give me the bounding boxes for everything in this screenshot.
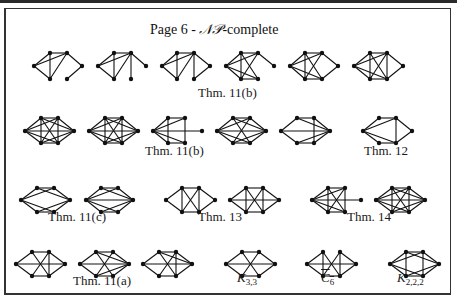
graph-edge (250, 118, 266, 131)
graph-vertex (261, 186, 265, 190)
graph-vertex (56, 116, 60, 120)
k222-sub: 2,2,2 (406, 277, 424, 287)
graph-edge (322, 53, 338, 66)
graph-vertex (111, 250, 115, 254)
graph-vertex (385, 77, 389, 81)
graph-edge (194, 66, 210, 79)
graph-g21 (141, 250, 194, 278)
graph-edge (118, 200, 133, 212)
graph-vertex (160, 64, 164, 68)
graph-edge (312, 200, 328, 212)
graph-vertex (157, 250, 161, 254)
label-c6-complement: C6 (321, 271, 334, 284)
graph-vertex (277, 198, 281, 202)
graph-vertex (368, 51, 372, 55)
graph-vertex (180, 186, 184, 190)
graph-vertex (310, 198, 314, 202)
graph-edge (34, 53, 50, 66)
k33-base: K (237, 270, 246, 285)
graph-vertex (303, 51, 307, 55)
graph-vertex (192, 51, 196, 55)
graph-edge (390, 252, 406, 264)
graph-vertex (385, 51, 389, 55)
label-thm12: Thm. 12 (364, 144, 408, 157)
graph-vertex (47, 250, 51, 254)
graph-edge (143, 264, 159, 276)
graph-vertex (279, 129, 283, 133)
graph-edge (143, 252, 159, 264)
graph-edge (166, 200, 182, 212)
graph-edge (217, 118, 233, 131)
graph-vertex (112, 77, 116, 81)
graph-edge (16, 264, 32, 276)
graph-vertex (23, 129, 27, 133)
graph-vertex (14, 262, 18, 266)
graph-vertex (326, 186, 330, 190)
graph-vertex (213, 198, 217, 202)
graph-edge (290, 66, 305, 79)
graph-vertex (231, 141, 235, 145)
graph-edge (49, 264, 65, 276)
graph-g9 (151, 116, 204, 145)
graph-edge (226, 252, 242, 264)
graph-edge (162, 66, 177, 79)
graph-edge (258, 53, 274, 66)
graph-vertex (377, 116, 381, 120)
graph-g19 (14, 250, 67, 278)
graph-vertex (180, 210, 184, 214)
graph-edge (226, 53, 241, 66)
c6-base: C (321, 270, 330, 285)
graph-edge (217, 131, 233, 143)
graph-vertex (326, 210, 330, 214)
graph-g3 (160, 51, 212, 81)
graph-vertex (136, 129, 140, 133)
graph-vertex (295, 141, 299, 145)
k222-base: K (397, 270, 406, 285)
graph-vertex (272, 64, 276, 68)
k33-sub: 3,3 (246, 277, 257, 287)
graph-edge (58, 131, 74, 143)
graph-vertex (35, 186, 39, 190)
graph-edge (387, 66, 403, 79)
graph-g10 (215, 116, 268, 145)
graph-vertex (407, 186, 411, 190)
graph-edge (226, 66, 241, 79)
graph-edge (363, 118, 379, 131)
graph-vertex (305, 262, 309, 266)
graph-edge (259, 264, 275, 276)
graph-vertex (336, 64, 340, 68)
graph-vertex (343, 186, 347, 190)
graph-vertex (368, 77, 372, 81)
graph-edge (80, 252, 96, 264)
graph-edge (290, 53, 305, 66)
graph-vertex (257, 274, 261, 278)
graph-vertex (175, 51, 179, 55)
graph-g8 (87, 116, 140, 145)
graph-edge (176, 252, 192, 264)
graph-g7 (23, 116, 76, 145)
graph-vertex (174, 274, 178, 278)
graph-vertex (359, 198, 363, 202)
graph-edge (376, 188, 392, 200)
graph-vertex (35, 210, 39, 214)
graph-vertex (215, 129, 219, 133)
graph-vertex (312, 116, 316, 120)
graph-edge (153, 131, 168, 143)
graph-edge (354, 66, 370, 79)
graph-g4 (224, 51, 276, 81)
graph-vertex (127, 262, 131, 266)
graph-vertex (421, 250, 425, 254)
graph-vertex (116, 186, 120, 190)
graph-vertex (338, 274, 342, 278)
graph-vertex (320, 51, 324, 55)
graph-edge (86, 188, 101, 200)
graph-vertex (338, 250, 342, 254)
graph-vertex (404, 250, 408, 254)
label-k222: K2,2,2 (397, 271, 424, 284)
graph-vertex (157, 274, 161, 278)
graph-edge (194, 53, 210, 66)
graph-vertex (103, 141, 107, 145)
graph-vertex (320, 77, 324, 81)
graph-edge (340, 264, 356, 276)
graph-edge (259, 252, 275, 264)
